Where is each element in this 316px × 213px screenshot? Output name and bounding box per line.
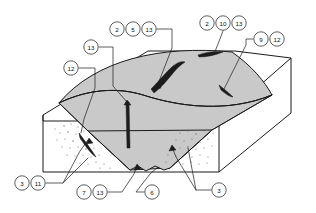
callout-3-10[interactable]: 3 (15, 176, 29, 190)
callout-label: 2 (115, 26, 119, 33)
callout-label: 6 (150, 189, 154, 196)
callout-label: 9 (259, 36, 263, 43)
callout-label: 13 (88, 44, 95, 51)
geological-block-diagram: 131225132101391231171363 (0, 0, 316, 213)
callout-13-13[interactable]: 13 (93, 185, 107, 199)
callout-label: 10 (220, 20, 227, 27)
callout-5-3[interactable]: 5 (126, 22, 140, 36)
callout-2-2[interactable]: 2 (110, 22, 124, 36)
callout-13-4[interactable]: 13 (142, 22, 156, 36)
callout-label: 11 (35, 180, 42, 187)
callout-label: 12 (274, 36, 281, 43)
callout-6-14[interactable]: 6 (145, 185, 159, 199)
callout-13-7[interactable]: 13 (232, 16, 246, 30)
callout-label: 13 (236, 20, 243, 27)
callout-12-9[interactable]: 12 (270, 32, 284, 46)
callout-label: 13 (97, 189, 104, 196)
callout-label: 3 (217, 187, 221, 194)
callout-3-15[interactable]: 3 (212, 183, 226, 197)
sliver-basin-vertical (126, 102, 130, 148)
callout-2-5[interactable]: 2 (200, 16, 214, 30)
callout-9-8[interactable]: 9 (254, 32, 268, 46)
callout-label: 7 (82, 189, 86, 196)
callout-7-12[interactable]: 7 (77, 185, 91, 199)
callout-13-0[interactable]: 13 (84, 40, 98, 54)
callout-label: 12 (68, 65, 75, 72)
callout-label: 3 (20, 180, 24, 187)
callout-label: 5 (131, 26, 135, 33)
callout-10-6[interactable]: 10 (216, 16, 230, 30)
callout-label: 13 (146, 26, 153, 33)
callout-11-11[interactable]: 11 (31, 176, 45, 190)
callout-12-1[interactable]: 12 (64, 61, 78, 75)
block-diagram-figure: 131225132101391231171363 (0, 0, 316, 213)
callout-label: 2 (205, 20, 209, 27)
